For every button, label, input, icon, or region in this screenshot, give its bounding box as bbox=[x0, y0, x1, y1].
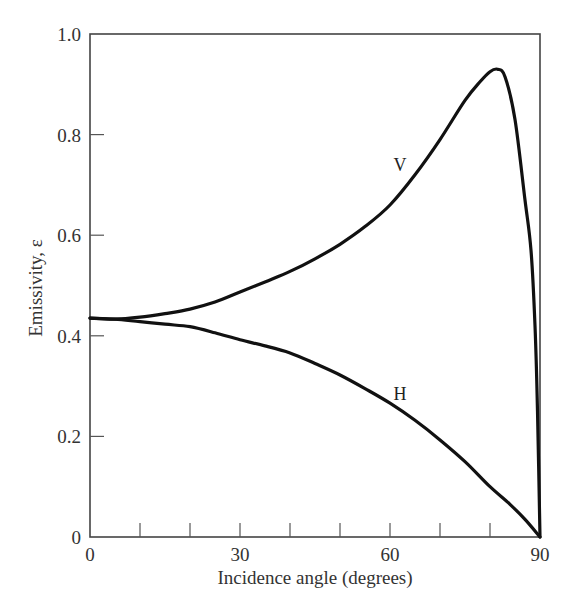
series-v-label: V bbox=[394, 155, 407, 175]
y-axis-ticks bbox=[90, 135, 104, 437]
series-h-curve bbox=[90, 318, 540, 537]
y-tick-label: 0.6 bbox=[57, 225, 81, 246]
y-tick-label: 1.0 bbox=[57, 24, 81, 45]
y-tick-label: 0.8 bbox=[57, 125, 81, 146]
x-tick-label: 0 bbox=[85, 544, 95, 565]
series-h-label: H bbox=[394, 384, 407, 404]
x-axis-title: Incidence angle (degrees) bbox=[217, 567, 412, 589]
plot-frame bbox=[90, 34, 540, 537]
x-tick-label: 30 bbox=[231, 544, 250, 565]
x-axis-tick-labels: 0306090 bbox=[85, 544, 549, 565]
y-axis-tick-labels: 00.20.40.60.81.0 bbox=[57, 24, 81, 548]
x-tick-label: 60 bbox=[381, 544, 400, 565]
x-axis-ticks bbox=[140, 523, 490, 537]
y-tick-label: 0.2 bbox=[57, 426, 81, 447]
x-tick-label: 90 bbox=[531, 544, 550, 565]
emissivity-chart: 0306090 00.20.40.60.81.0 V H Incidence a… bbox=[0, 0, 568, 612]
y-axis-title: Emissivity, ε bbox=[25, 239, 46, 337]
y-tick-label: 0 bbox=[72, 527, 82, 548]
y-tick-label: 0.4 bbox=[57, 326, 81, 347]
